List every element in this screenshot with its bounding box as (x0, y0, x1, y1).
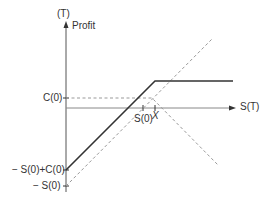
long-stock-line (66, 38, 213, 186)
y-tick-label-minus-s0: − S(0) (33, 181, 61, 191)
y-axis-label: Profit (72, 21, 95, 31)
y-axis-arrow-icon (64, 21, 69, 28)
x-tick-label-s0: S(0) (134, 114, 153, 124)
covered-call-line (66, 81, 233, 170)
y-tick-label-c0: C(0) (43, 93, 62, 103)
x-axis-label: S(T) (240, 102, 259, 112)
x-tick-label-x: X (152, 111, 159, 121)
y-axis-top-label: (T) (57, 9, 70, 19)
y-tick-label-minus-s0-plus-c0: − S(0)+C(0) (12, 165, 65, 175)
x-axis-arrow-icon (229, 106, 236, 111)
